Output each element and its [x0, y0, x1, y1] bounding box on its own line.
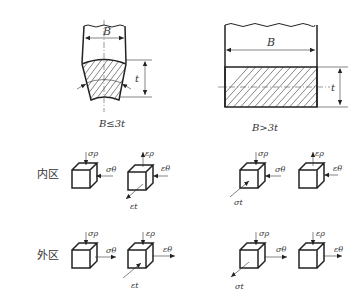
label-top: σρ — [88, 229, 98, 238]
label-side: σθ — [275, 165, 285, 174]
cube — [240, 163, 265, 188]
label-side: εθ — [334, 245, 343, 254]
break-line — [225, 24, 315, 27]
cube — [72, 243, 97, 268]
moment-arrow-right — [122, 84, 131, 89]
cube — [128, 243, 153, 268]
narrow-caption: B≤3t — [98, 118, 126, 129]
width-label: B — [266, 36, 275, 49]
width-label: B — [102, 25, 111, 38]
bending-stress-strain-diagram: B t B≤3t B — [0, 0, 357, 303]
cube-outer-narrow-strain: ερ εθ εt — [123, 229, 175, 290]
cube-inner-wide-strain: ερ εθ — [299, 149, 342, 188]
row-label-outer: 外区 — [37, 249, 59, 262]
label-side: σθ — [276, 245, 286, 254]
label-side: σθ — [106, 246, 116, 255]
label-side: εθ — [163, 245, 172, 254]
arrow-front — [123, 263, 141, 278]
beam-left-edge — [82, 26, 84, 63]
label-top: σρ — [88, 149, 98, 158]
label-front: εt — [130, 202, 138, 211]
label-top: σρ — [258, 149, 268, 158]
cube-outer-wide-stress: σρ σθ σt — [231, 229, 287, 291]
cube-inner-narrow-stress: σρ σθ — [72, 149, 116, 188]
cube-inner-wide-stress: σρ σθ σt — [230, 149, 285, 207]
label-front: εt — [131, 281, 139, 290]
cube — [72, 163, 97, 188]
wide-caption: B>3t — [251, 122, 279, 133]
cube — [299, 163, 324, 188]
moment-arrow-left — [77, 84, 86, 89]
label-side: εθ — [333, 164, 342, 173]
label-side: εθ — [161, 164, 170, 173]
narrow-beam-figure: B t B≤3t — [52, 20, 152, 129]
cube-outer-narrow-stress: σρ σθ — [72, 229, 116, 268]
label-top: ερ — [146, 229, 155, 238]
cube-inner-narrow-strain: ερ εθ εt — [126, 149, 170, 211]
label-side: σθ — [106, 165, 116, 174]
cube-outer-wide-strain: ερ εθ — [299, 229, 343, 268]
label-front: σt — [235, 282, 244, 291]
beam-right-edge — [125, 26, 126, 63]
label-top: σρ — [259, 229, 269, 238]
label-top: ερ — [315, 149, 324, 158]
label-top: ερ — [145, 149, 154, 158]
label-top: ερ — [316, 229, 325, 238]
row-label-inner: 内区 — [37, 167, 59, 181]
thickness-label: t — [135, 73, 140, 84]
label-front: σt — [234, 198, 243, 207]
wide-plate-figure: B t B>3t — [208, 24, 351, 134]
cube — [240, 243, 265, 268]
thickness-label: t — [331, 82, 336, 93]
cube — [299, 243, 324, 268]
